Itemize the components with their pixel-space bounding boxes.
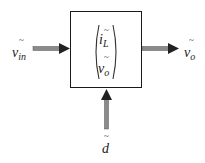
tilde-accent-vin: ~: [19, 36, 24, 45]
input-d-symbol: d: [102, 141, 109, 156]
input-vin-label: vin: [12, 46, 26, 60]
output-vo-subscript: o: [190, 51, 195, 62]
input-arrow-d: [101, 89, 112, 129]
input-arrow-vin: [33, 43, 70, 54]
tilde-accent-d: ~: [104, 132, 109, 141]
output-arrow-vo: [142, 43, 179, 54]
input-vin-subscript: in: [18, 51, 26, 62]
state-vo-label: vo: [98, 62, 109, 76]
tilde-accent-vo-state: ~: [104, 53, 109, 62]
tilde-accent-vo-out: ~: [189, 36, 194, 45]
state-iL-subscript: L: [103, 38, 109, 49]
input-d-label: d: [102, 142, 109, 156]
state-iL-label: iL: [99, 33, 108, 47]
output-vo-label: vo: [184, 46, 195, 60]
state-vo-subscript: o: [104, 67, 109, 78]
